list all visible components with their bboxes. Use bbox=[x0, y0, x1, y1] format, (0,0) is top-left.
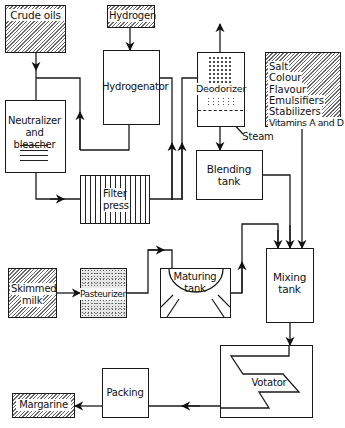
hydrogen-source: Hydrogen bbox=[107, 5, 155, 28]
skimmed-milk-source: Skimmed milk bbox=[8, 268, 57, 318]
maturing-tank-label-line1: Maturing bbox=[161, 271, 229, 283]
maturing-tank-label-line2: tank bbox=[161, 283, 229, 295]
liquid-lines-icon bbox=[20, 145, 48, 165]
hydrogenator-unit: Hydrogenator bbox=[103, 50, 160, 125]
blending-tank-label-line1: Blending bbox=[197, 163, 261, 175]
margarine-process-diagram: Crude oils Hydrogen Hydrogenator Neutral… bbox=[0, 0, 345, 428]
mixing-tank-label-line1: Mixing bbox=[267, 271, 312, 283]
skimmed-milk-label-line1: Skimmed bbox=[10, 283, 55, 295]
mixing-tank-unit: Mixing tank bbox=[266, 248, 314, 323]
hydrogenator-label: Hydrogenator bbox=[102, 81, 159, 93]
crude-oils-label: Crude oils bbox=[6, 9, 65, 21]
margarine-label: Margarine bbox=[16, 399, 71, 411]
blending-tank-unit: Blending tank bbox=[196, 150, 263, 200]
skimmed-milk-label-line2: milk bbox=[21, 295, 43, 307]
additive-vitamins: Vitamins A and D bbox=[268, 117, 345, 128]
packing-label: Packing bbox=[103, 387, 147, 399]
margarine-product: Margarine bbox=[12, 393, 75, 418]
filter-press-unit: Filter press bbox=[80, 175, 150, 224]
crude-oils-source: Crude oils bbox=[5, 5, 66, 53]
pasteurizer-label: Pasteurizer bbox=[80, 288, 125, 300]
votator-unit: Votator bbox=[220, 345, 313, 418]
deodorizer-label: Deodorizer bbox=[196, 83, 244, 95]
deodorizer-unit: Deodorizer bbox=[197, 52, 245, 127]
bubbles-icon bbox=[206, 97, 236, 107]
additive-salt: Salt bbox=[268, 61, 289, 72]
neutralizer-label-line1: Neutralizer bbox=[6, 115, 63, 127]
steam-label: Steam bbox=[240, 131, 276, 143]
additive-emulsifiers: Emulsifiers bbox=[268, 95, 325, 106]
neutralizer-bleacher-unit: Neutralizer and bleacher bbox=[5, 100, 66, 173]
additive-stabilizers: Stabilizers bbox=[268, 106, 322, 117]
hydrogen-label: Hydrogen bbox=[108, 10, 154, 22]
additives-source: Salt Colour Flavour Emulsifiers Stabiliz… bbox=[265, 52, 341, 127]
filter-press-label-line1: Filter bbox=[103, 188, 125, 200]
pasteurizer-unit: Pasteurizer bbox=[80, 268, 127, 318]
packing-unit: Packing bbox=[102, 368, 149, 418]
additive-colour: Colour bbox=[268, 72, 302, 83]
additive-flavour: Flavour bbox=[268, 84, 307, 95]
vapor-dots-icon bbox=[208, 56, 232, 84]
maturing-tank-unit: Maturing tank bbox=[160, 268, 231, 318]
blending-tank-label-line2: tank bbox=[197, 175, 261, 187]
liquid-level-line bbox=[198, 110, 243, 111]
filter-press-label-line2: press bbox=[103, 200, 127, 212]
votator-label: Votator bbox=[249, 377, 289, 389]
additives-list: Salt Colour Flavour Emulsifiers Stabiliz… bbox=[268, 61, 345, 129]
mixing-tank-label-line2: tank bbox=[267, 283, 312, 295]
